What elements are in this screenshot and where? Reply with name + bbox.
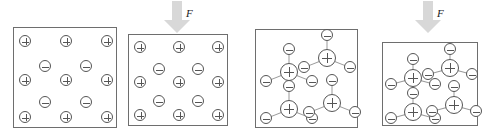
negative-charge (303, 106, 315, 118)
plus-icon (284, 104, 294, 114)
minus-icon (309, 78, 316, 85)
positive-charge (445, 96, 463, 114)
glyph-bar-horizontal (263, 82, 270, 83)
negative-charge (153, 95, 165, 107)
negative-charge (192, 95, 204, 107)
glyph-bar-horizontal (432, 85, 439, 86)
minus-icon (410, 56, 417, 63)
positive-charge (60, 111, 72, 123)
plus-icon (137, 79, 144, 86)
negative-charge (426, 105, 438, 117)
negative-charge (407, 87, 419, 99)
negative-charge (466, 68, 478, 80)
negative-charge (448, 80, 460, 92)
positive-charge (212, 76, 224, 88)
negative-charge (444, 43, 456, 55)
glyph-bar-horizontal (473, 112, 480, 113)
glyph-bar-vertical (219, 79, 220, 86)
glyph-bar-horizontal (83, 67, 90, 68)
negative-charge (192, 63, 204, 75)
positive-charge (280, 100, 298, 118)
plus-icon (215, 79, 222, 86)
negative-charge (39, 96, 51, 108)
minus-icon (388, 115, 395, 122)
glyph-bar-horizontal (195, 70, 202, 71)
glyph-bar-vertical (413, 73, 414, 83)
positive-charge (60, 74, 72, 86)
figure-canvas: FF (0, 0, 489, 137)
glyph-bar-vertical (219, 112, 220, 119)
minus-icon (329, 77, 336, 84)
minus-icon (425, 71, 432, 78)
positive-charge (134, 76, 146, 88)
minus-icon (473, 108, 480, 115)
negative-charge (470, 105, 482, 117)
glyph-bar-vertical (289, 104, 290, 114)
glyph-bar-horizontal (388, 119, 395, 120)
glyph-bar-vertical (219, 44, 220, 51)
plus-icon (137, 112, 144, 119)
glyph-bar-horizontal (410, 60, 417, 61)
glyph-bar-horizontal (388, 85, 395, 86)
negative-charge (349, 106, 361, 118)
glyph-bar-vertical (141, 112, 142, 119)
glyph-bar-horizontal (447, 50, 454, 51)
negative-charge (39, 60, 51, 72)
glyph-bar-vertical (450, 63, 451, 73)
negative-charge (422, 68, 434, 80)
glyph-bar-horizontal (324, 36, 331, 37)
minus-icon (469, 71, 476, 78)
negative-charge (385, 78, 397, 90)
positive-charge (19, 111, 31, 123)
glyph-bar-horizontal (309, 82, 316, 83)
minus-icon (195, 98, 202, 105)
plus-icon (215, 112, 222, 119)
positive-charge (280, 63, 298, 81)
plus-icon (104, 77, 111, 84)
force-label: F (437, 8, 444, 19)
positive-charge (212, 109, 224, 121)
minus-icon (83, 63, 90, 70)
glyph-bar-horizontal (195, 102, 202, 103)
glyph-bar-vertical (289, 67, 290, 77)
glyph-bar-vertical (67, 77, 68, 84)
plus-icon (63, 77, 70, 84)
minus-icon (156, 66, 163, 73)
positive-charge (173, 41, 185, 53)
glyph-bar-vertical (108, 77, 109, 84)
negative-charge (260, 112, 272, 124)
plus-icon (408, 73, 418, 83)
plus-icon (63, 38, 70, 45)
positive-charge (212, 41, 224, 53)
minus-icon (410, 90, 417, 97)
glyph-bar-horizontal (309, 119, 316, 120)
glyph-bar-vertical (327, 53, 328, 63)
glyph-bar-horizontal (286, 50, 293, 51)
negative-charge (326, 74, 338, 86)
minus-icon (388, 81, 395, 88)
plus-icon (63, 114, 70, 121)
glyph-bar-horizontal (429, 112, 436, 113)
negative-charge (385, 112, 397, 124)
positive-charge (404, 69, 422, 87)
plus-icon (449, 100, 459, 110)
plus-icon (176, 112, 183, 119)
plus-icon (215, 44, 222, 51)
panel-uncompressed-lattice (13, 27, 117, 128)
glyph-bar-horizontal (263, 119, 270, 120)
minus-icon (286, 83, 293, 90)
minus-icon (286, 46, 293, 53)
glyph-bar-horizontal (156, 70, 163, 71)
minus-icon (42, 99, 49, 106)
positive-charge (19, 35, 31, 47)
plus-icon (176, 44, 183, 51)
negative-charge (80, 96, 92, 108)
panel-uncompressed-molecules (255, 29, 358, 128)
glyph-bar-vertical (332, 98, 333, 108)
glyph-bar-horizontal (286, 87, 293, 88)
minus-icon (352, 109, 359, 116)
glyph-bar-horizontal (469, 75, 476, 76)
glyph-bar-vertical (413, 107, 414, 117)
negative-charge (429, 78, 441, 90)
minus-icon (263, 78, 270, 85)
